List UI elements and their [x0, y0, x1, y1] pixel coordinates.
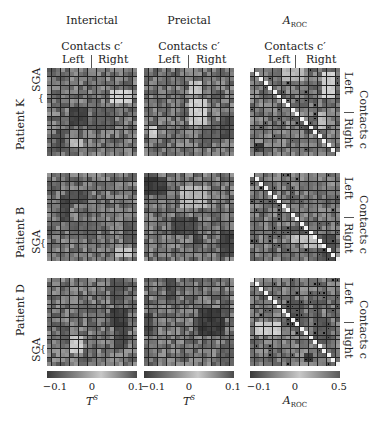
sga-brace-b: {	[40, 238, 46, 248]
cbar-tick-min-1: −0.1	[40, 381, 70, 392]
row-label-patient-d: Patient D	[14, 284, 27, 336]
cbar-label-aroc: AROC	[265, 394, 325, 409]
heatmap-patient-b-preictal	[144, 173, 234, 261]
heatmap-patient-k-aroc	[250, 68, 340, 156]
right-label-interictal: Right	[98, 53, 128, 66]
aroc-symbol: A	[283, 14, 291, 27]
right-label-aroc: Right	[306, 53, 336, 66]
right-label-preictal: Right	[196, 53, 226, 66]
colorbar-interictal	[47, 371, 137, 378]
right-axis-left-2: Left	[342, 282, 355, 304]
row-label-patient-b: Patient B	[14, 207, 27, 258]
right-axis-right-1: Right	[342, 223, 355, 253]
divider-aroc	[295, 55, 296, 68]
right-axis-right-2: Right	[342, 328, 355, 358]
right-axis-left-0: Left	[342, 72, 355, 94]
cbar-label-ts-2: TS	[159, 394, 219, 408]
right-axis-contacts-2: Contacts c	[357, 300, 370, 359]
heatmap-patient-b-interictal	[47, 173, 137, 261]
column-title-interictal: Interictal	[42, 14, 142, 27]
colorbar-aroc	[250, 371, 340, 378]
divider-preictal	[188, 55, 189, 68]
cbar-label-ts-1: TS	[62, 394, 122, 408]
heatmap-patient-k-interictal	[47, 68, 137, 156]
contacts-label-preictal: Contacts c′	[139, 40, 239, 53]
sga-brace-k: {	[38, 93, 44, 103]
sga-brace-d: {	[40, 344, 46, 354]
cbar-tick-max-3: 0.5	[324, 381, 354, 392]
left-label-aroc: Left	[268, 53, 290, 66]
colorbar-preictal	[144, 371, 234, 378]
right-axis-contacts-1: Contacts c	[357, 195, 370, 254]
contacts-label-interictal: Contacts c′	[42, 40, 142, 53]
heatmap-patient-d-interictal	[47, 278, 137, 366]
cbar-tick-min-2: −0.1	[138, 381, 168, 392]
sga-label-k: SGA	[30, 68, 43, 92]
right-axis-right-0: Right	[342, 118, 355, 148]
cbar-tick-min-3: −0.1	[244, 381, 274, 392]
right-axis-contacts-0: Contacts c	[357, 90, 370, 149]
cbar-tick-mid-2: 0	[174, 381, 204, 392]
column-title-aroc: AROC	[245, 14, 345, 29]
contacts-label-aroc: Contacts c′	[245, 40, 345, 53]
heatmap-patient-d-preictal	[144, 278, 234, 366]
row-label-patient-k: Patient K	[14, 99, 27, 150]
aroc-subscript: ROC	[291, 21, 307, 29]
cbar-tick-mid-1: 0	[77, 381, 107, 392]
right-axis-divider-1	[344, 217, 354, 218]
heatmap-patient-d-aroc	[250, 278, 340, 366]
right-axis-divider-2	[344, 322, 354, 323]
right-axis-divider-0	[344, 112, 354, 113]
cbar-tick-mid-3: 0	[280, 381, 310, 392]
right-axis-left-1: Left	[342, 177, 355, 199]
heatmap-patient-k-preictal	[144, 68, 234, 156]
heatmap-patient-b-aroc	[250, 173, 340, 261]
divider-interictal	[91, 55, 92, 68]
left-label-preictal: Left	[158, 53, 180, 66]
column-title-preictal: Preictal	[139, 14, 239, 27]
left-label-interictal: Left	[62, 53, 84, 66]
